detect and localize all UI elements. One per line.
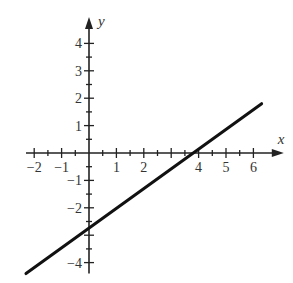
x-axis-arrow-icon <box>272 149 284 157</box>
y-axis-label: y <box>96 13 105 29</box>
graph-line <box>26 104 262 274</box>
y-tick-label: −1 <box>67 173 82 188</box>
y-tick-label: 4 <box>75 36 82 51</box>
axes <box>26 17 284 274</box>
x-tick-label: 1 <box>113 160 120 175</box>
x-tick-label: 4 <box>195 160 202 175</box>
x-tick-label: 5 <box>223 160 230 175</box>
x-tick-label: 2 <box>140 160 147 175</box>
y-axis-arrow-icon <box>85 17 93 29</box>
y-tick-label: 2 <box>75 91 82 106</box>
x-axis-label: x <box>277 131 285 147</box>
x-tick-label: −2 <box>27 160 42 175</box>
y-tick-label: 1 <box>75 119 82 134</box>
data-line <box>26 104 262 274</box>
y-tick-label: 3 <box>75 64 82 79</box>
y-tick-label: −2 <box>67 201 82 216</box>
y-tick-label: −4 <box>67 256 82 271</box>
line-graph: −2−1124564321−1−2−4 x y <box>0 0 293 283</box>
x-tick-label: 6 <box>250 160 257 175</box>
